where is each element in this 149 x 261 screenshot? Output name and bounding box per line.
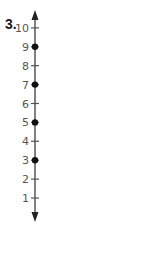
point-3 [32, 157, 38, 163]
tick-label-4: 4 [22, 135, 29, 148]
tick-label-1: 1 [22, 192, 29, 205]
tick-label-10: 10 [15, 22, 29, 35]
point-9 [32, 44, 38, 50]
tick-label-3: 3 [22, 154, 29, 167]
tick-label-6: 6 [22, 98, 29, 111]
arrow-down-icon [32, 212, 39, 222]
tick-label-7: 7 [22, 79, 29, 92]
arrow-up-icon [32, 10, 39, 20]
point-5 [32, 119, 38, 125]
tick-label-2: 2 [22, 173, 29, 186]
vertical-number-line: 12345678910 [0, 0, 149, 261]
tick-label-8: 8 [22, 60, 29, 73]
point-7 [32, 81, 38, 87]
tick-label-9: 9 [22, 41, 29, 54]
tick-label-5: 5 [22, 116, 29, 129]
